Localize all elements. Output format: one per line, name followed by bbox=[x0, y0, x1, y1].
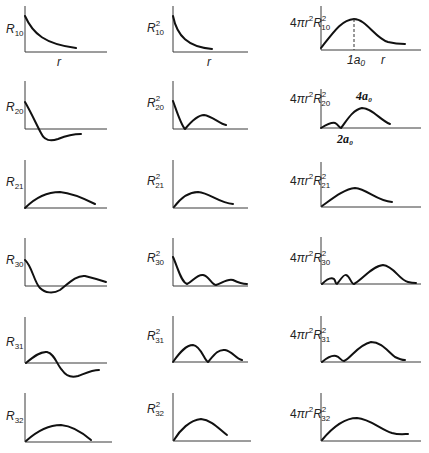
axes bbox=[321, 162, 421, 207]
ylabel-P30: 4πr2R230 bbox=[290, 249, 331, 267]
curve-P10 bbox=[321, 19, 405, 48]
ylabel-R30: R30 bbox=[6, 253, 24, 269]
curve-R10-squared bbox=[173, 16, 212, 49]
orbital-figure: R10 r R210 r 4πr2R210 1a₀ r R20 R220 4πr… bbox=[0, 0, 429, 453]
ylabel-R10: R10 bbox=[6, 22, 24, 38]
ylabel-R32-squared: R232 bbox=[147, 400, 165, 418]
ylabel-R20: R20 bbox=[6, 100, 24, 116]
xlabel-r: r bbox=[381, 53, 386, 67]
axes bbox=[173, 160, 248, 208]
curve-P32 bbox=[322, 418, 408, 440]
axes bbox=[25, 81, 107, 129]
axes bbox=[173, 6, 248, 52]
ylabel-P31: 4πr2R231 bbox=[290, 326, 331, 344]
curve-R32-squared bbox=[174, 419, 227, 440]
panel-R21: R21 bbox=[6, 160, 107, 208]
panel-R32-squared: R232 bbox=[147, 393, 251, 441]
ylabel-R21: R21 bbox=[6, 175, 24, 191]
axes bbox=[25, 6, 107, 52]
handwritten-2a0-annotation: 2a₀ bbox=[336, 132, 353, 146]
axes bbox=[173, 393, 251, 441]
axes bbox=[173, 316, 248, 362]
ylabel-R30-squared: R230 bbox=[147, 249, 165, 267]
panel-P30: 4πr2R230 bbox=[290, 237, 421, 284]
curve-R21-squared bbox=[174, 192, 233, 207]
curve-R10 bbox=[25, 16, 76, 48]
panel-P32: 4πr2R232 bbox=[290, 393, 421, 441]
curve-P20 bbox=[321, 108, 390, 128]
curve-R30-squared bbox=[173, 257, 247, 285]
curve-R20 bbox=[25, 102, 81, 140]
panel-R32: R32 bbox=[6, 393, 112, 442]
ylabel-R21-squared: R221 bbox=[147, 172, 165, 190]
panel-R31-squared: R231 bbox=[147, 316, 248, 362]
curve-R30 bbox=[25, 260, 106, 292]
ylabel-R32: R32 bbox=[6, 409, 24, 425]
ylabel-R31-squared: R231 bbox=[147, 327, 165, 345]
panel-R20-squared: R220 bbox=[147, 81, 248, 129]
panel-R10: R10 r bbox=[6, 6, 107, 69]
axes bbox=[321, 237, 421, 284]
curve-P30 bbox=[322, 265, 416, 284]
axes bbox=[25, 393, 112, 442]
axes bbox=[25, 317, 107, 363]
panel-R31: R31 bbox=[6, 317, 107, 377]
panel-P31: 4πr2R231 bbox=[290, 316, 421, 362]
curve-R32 bbox=[26, 425, 91, 441]
panel-P20: 4πr2R220 4a₀ 2a₀ bbox=[290, 89, 421, 146]
ylabel-P32: 4πr2R232 bbox=[290, 405, 331, 423]
ylabel-P20: 4πr2R220 bbox=[290, 90, 331, 108]
panel-P21: 4πr2R221 bbox=[290, 162, 421, 207]
a0-tick-label: 1a₀ bbox=[347, 53, 365, 67]
xlabel-r: r bbox=[207, 55, 212, 69]
panel-R30: R30 bbox=[6, 238, 107, 292]
xlabel-r: r bbox=[57, 55, 62, 69]
panel-R30-squared: R230 bbox=[147, 238, 248, 286]
ylabel-R20-squared: R220 bbox=[147, 94, 165, 112]
curve-R31 bbox=[26, 352, 99, 377]
panel-R10-squared: R210 r bbox=[147, 6, 248, 69]
curve-P21 bbox=[322, 188, 392, 206]
handwritten-4a0-annotation: 4a₀ bbox=[355, 89, 372, 103]
panel-R20: R20 bbox=[6, 81, 107, 140]
curve-R20-squared bbox=[173, 101, 226, 129]
curve-R31-squared bbox=[173, 345, 242, 362]
axes bbox=[173, 81, 248, 129]
ylabel-R31: R31 bbox=[6, 335, 24, 351]
panel-P10: 4πr2R210 1a₀ r bbox=[290, 6, 421, 67]
ylabel-R10-squared: R210 bbox=[147, 19, 165, 37]
curve-P31 bbox=[322, 342, 405, 362]
axes bbox=[173, 238, 248, 286]
panel-R21-squared: R221 bbox=[147, 160, 248, 208]
ylabel-P10: 4πr2R210 bbox=[290, 14, 331, 32]
ylabel-P21: 4πr2R221 bbox=[290, 172, 331, 190]
axes bbox=[25, 160, 107, 208]
curve-R21 bbox=[25, 192, 95, 208]
